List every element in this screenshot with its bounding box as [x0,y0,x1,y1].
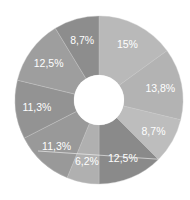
donut-chart: 15%13,8%8,7%12,5%6,2%11,3%11,3%12,5%8,7% [0,0,190,200]
slice-label: 12,5% [108,152,138,164]
slice-label: 6,2% [75,155,99,167]
slice-label: 11,3% [22,101,51,113]
slice-label: 12,5% [34,57,64,69]
slice-label: 13,8% [145,82,175,94]
donut-hole [74,75,124,125]
slice-label: 11,3% [42,140,71,152]
slice-label: 8,7% [142,125,166,137]
slice-label: 8,7% [70,34,94,46]
donut-chart-svg: 15%13,8%8,7%12,5%6,2%11,3%11,3%12,5%8,7% [0,0,190,200]
slice-label: 15% [117,38,138,50]
